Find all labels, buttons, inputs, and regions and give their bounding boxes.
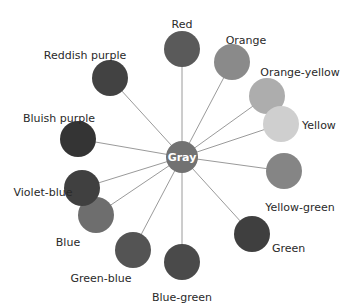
node-reddish-purple: Reddish purple [44,49,128,97]
node-orange-yellow: Orange-yellow [249,66,340,115]
node-bluish-purple: Bluish purple [23,112,96,158]
label-violet-blue: Violet-blue [14,186,73,199]
label-reddish-purple: Reddish purple [44,49,127,62]
label-yellow-green: Yellow-green [264,201,335,214]
color-wheel-diagram: RedOrangeOrange-yellowYellowYellow-green… [0,0,348,307]
label-green: Green [272,242,305,255]
circle-green [234,216,270,252]
label-yellow: Yellow [301,119,336,132]
circle-green-blue [115,232,151,268]
circle-yellow-green [266,153,302,189]
label-blue-green: Blue-green [152,291,212,304]
center-label: Gray [168,151,197,164]
circle-bluish-purple [60,121,96,157]
circle-yellow [263,106,299,142]
label-orange-yellow: Orange-yellow [260,66,340,79]
circle-orange [214,44,250,80]
circle-red [164,31,200,67]
label-blue: Blue [56,236,81,249]
label-red: Red [172,18,193,31]
label-green-blue: Green-blue [70,272,131,285]
label-orange: Orange [226,34,267,47]
circle-blue-green [164,244,200,280]
node-orange: Orange [214,34,267,81]
node-yellow-green: Yellow-green [264,153,335,214]
label-bluish-purple: Bluish purple [23,112,95,125]
node-green-blue: Green-blue [70,232,151,285]
node-blue-green: Blue-green [152,244,212,304]
node-red: Red [164,18,200,68]
node-violet-blue: Violet-blue [14,170,100,206]
node-green: Green [234,216,305,255]
node-yellow: Yellow [263,106,336,142]
circle-reddish-purple [92,60,128,96]
center-node: Gray [166,141,198,173]
